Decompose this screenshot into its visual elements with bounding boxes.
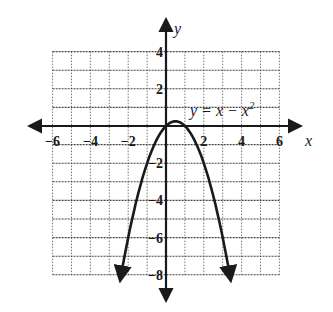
y-tick-label: −2	[148, 156, 163, 171]
y-tick-label: 2	[156, 82, 163, 97]
axes	[30, 20, 300, 300]
x-axis-label: x	[304, 132, 312, 149]
x-tick-label: 6	[276, 134, 283, 149]
y-tick-label: −8	[148, 268, 163, 283]
x-tick-label: −2	[121, 134, 136, 149]
y-tick-label: −6	[148, 231, 163, 246]
x-tick-label: 4	[238, 134, 245, 149]
y-axis-label: y	[172, 20, 182, 38]
x-tick-label: −4	[83, 134, 98, 149]
y-tick-label: 4	[156, 45, 163, 60]
x-tick-label: −6	[45, 134, 60, 149]
y-tick-label: −4	[148, 193, 163, 208]
x-tick-label: 2	[200, 134, 207, 149]
equation-label: y = x − x2	[188, 99, 255, 120]
graph: −6−4−224642−2−4−6−8 y = x − x2 x y	[0, 0, 333, 312]
